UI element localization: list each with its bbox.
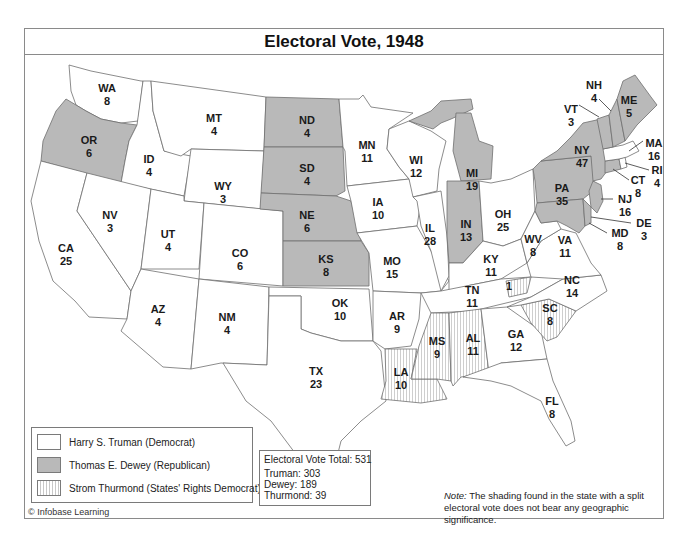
legend-label: Thomas E. Dewey (Republican) [69, 460, 210, 471]
legend: Harry S. Truman (Democrat) Thomas E. Dew… [31, 427, 253, 503]
svg-text:NJ16: NJ16 [618, 193, 632, 218]
totals-header: Electoral Vote Total: 531 [264, 454, 366, 465]
svg-text:NH4: NH4 [586, 79, 602, 104]
svg-text:IN13: IN13 [460, 218, 472, 243]
svg-text:CT8: CT8 [631, 174, 646, 199]
legend-label: Harry S. Truman (Democrat) [69, 437, 195, 448]
svg-text:DE3: DE3 [636, 217, 651, 242]
legend-item-truman: Harry S. Truman (Democrat) [37, 433, 195, 451]
svg-text:IA10: IA10 [372, 196, 384, 221]
dewey-swatch [37, 457, 61, 473]
svg-text:1: 1 [506, 280, 512, 292]
svg-text:MA16: MA16 [645, 137, 662, 162]
state-CT[interactable] [605, 159, 621, 173]
legend-item-thurmond: Strom Thurmond (States' Rights Democrat) [37, 479, 261, 497]
svg-text:RI4: RI4 [652, 164, 663, 189]
svg-text:AL11: AL11 [466, 332, 481, 357]
svg-text:VT3: VT3 [564, 103, 578, 128]
totals-thurmond: Thurmond: 39 [264, 490, 366, 501]
map-frame: Electoral Vote, 1948 [24, 28, 664, 519]
electoral-totals-box: Electoral Vote Total: 531 Truman: 303 De… [259, 450, 371, 506]
state-CO[interactable] [199, 203, 283, 286]
svg-text:OH25: OH25 [495, 208, 512, 233]
svg-text:CA25: CA25 [58, 242, 74, 267]
svg-text:LA10: LA10 [394, 366, 409, 391]
state-ME[interactable] [617, 75, 657, 141]
svg-text:NC14: NC14 [564, 274, 580, 299]
note-prefix: Note: [444, 490, 467, 501]
totals-dewey: Dewey: 189 [264, 479, 366, 490]
split-vote-note: Note: The shading found in the state wit… [444, 490, 664, 526]
totals-truman: Truman: 303 [264, 468, 366, 479]
svg-text:OK10: OK10 [332, 297, 349, 322]
truman-swatch [37, 434, 61, 450]
note-text: The shading found in the state with a sp… [444, 490, 644, 525]
copyright-credit: © Infobase Learning [28, 507, 109, 517]
state-IA[interactable] [347, 179, 421, 233]
svg-text:GA12: GA12 [508, 328, 525, 353]
svg-text:PA35: PA35 [555, 182, 570, 207]
svg-text:IL28: IL28 [424, 222, 436, 247]
svg-text:NY47: NY47 [574, 144, 590, 169]
svg-text:MD8: MD8 [611, 227, 628, 252]
svg-text:TN11: TN11 [465, 284, 480, 309]
svg-text:TX23: TX23 [309, 365, 324, 390]
thurmond-swatch [37, 480, 61, 496]
svg-text:WI12: WI12 [409, 154, 422, 179]
svg-text:VA11: VA11 [558, 234, 573, 259]
svg-text:MI19: MI19 [466, 167, 478, 192]
legend-item-dewey: Thomas E. Dewey (Republican) [37, 456, 210, 474]
legend-label: Strom Thurmond (States' Rights Democrat) [69, 483, 261, 494]
